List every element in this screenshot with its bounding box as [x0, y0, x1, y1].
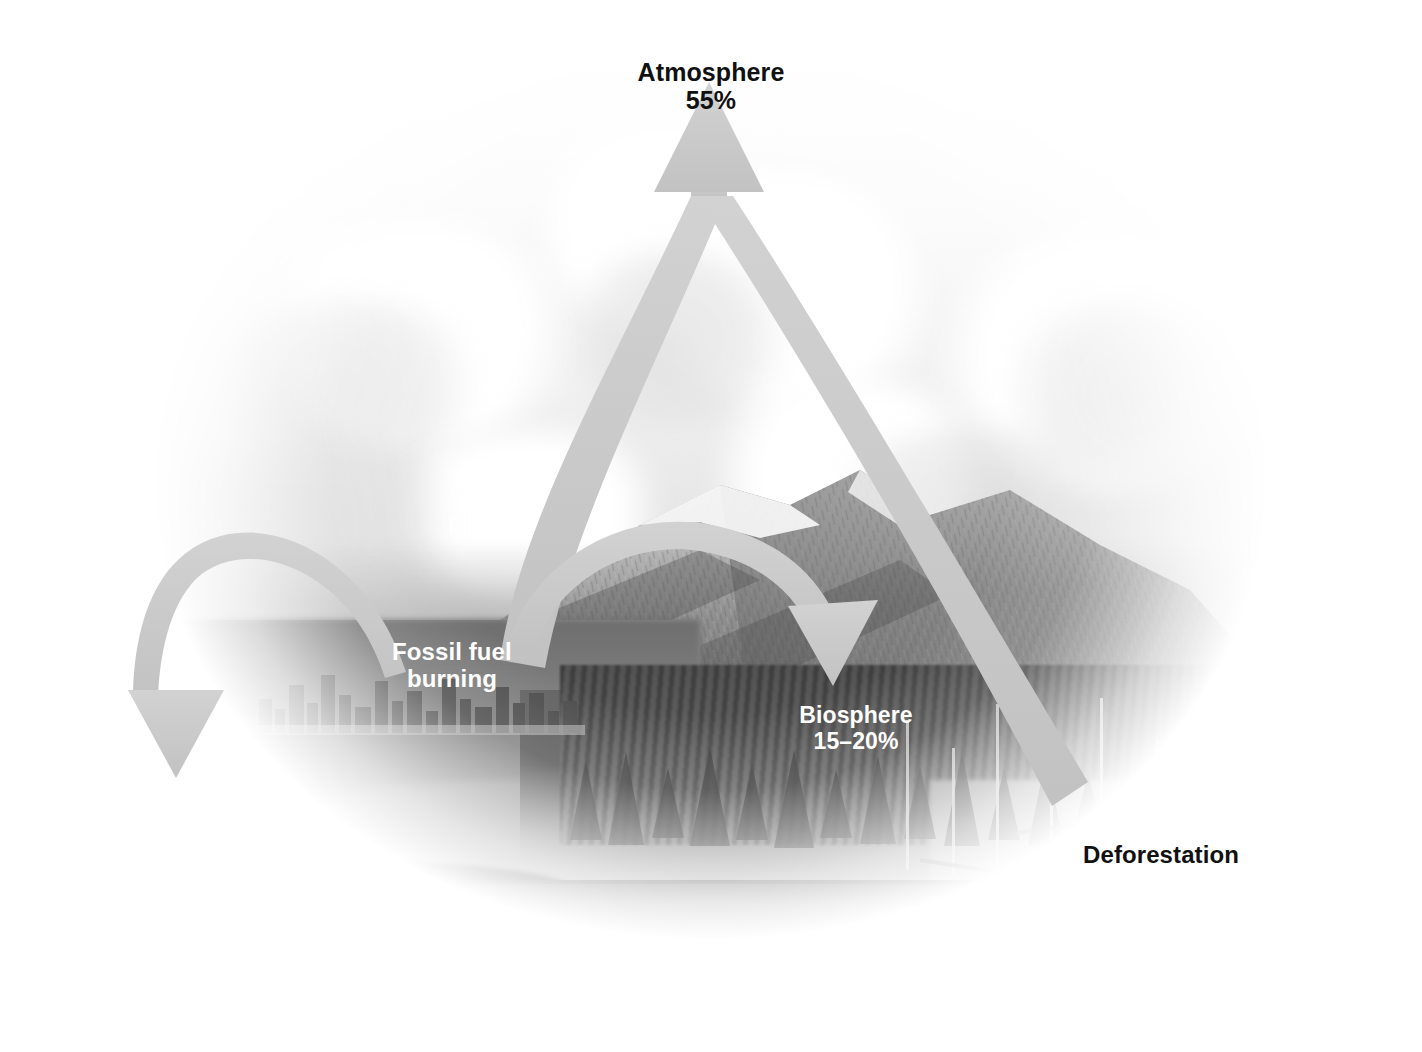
label-deforestation: Deforestation [1083, 842, 1239, 869]
diagram-canvas: Atmosphere 55% Shallow ocean 25–30% Foss… [0, 0, 1422, 1052]
arrow-to-atmosphere [500, 82, 1088, 806]
flow-arrows [0, 0, 1422, 1052]
label-atmosphere: Atmosphere 55% [638, 58, 785, 114]
label-shallow-ocean: Shallow ocean 25–30% [92, 776, 260, 830]
arrow-to-shallow-ocean [128, 532, 406, 778]
label-biosphere: Biosphere 15–20% [799, 703, 912, 755]
label-fossil-fuel-burning: Fossil fuel burning [392, 639, 512, 693]
